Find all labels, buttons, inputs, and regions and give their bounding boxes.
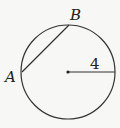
radius-label: 4 [90,55,100,73]
point-label-b: B [69,6,81,24]
chord-ab [22,25,69,72]
circle-diagram: A B 4 [0,0,120,128]
point-label-a: A [3,68,16,86]
diagram-canvas: A B 4 [0,0,120,128]
center-point [66,70,69,73]
